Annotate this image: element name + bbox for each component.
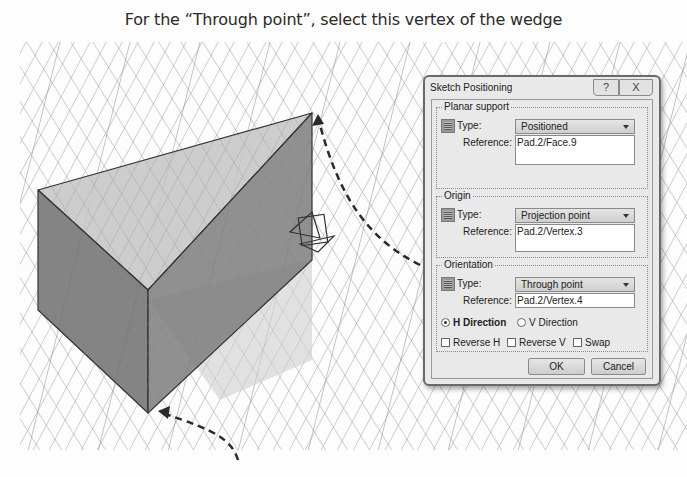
help-button[interactable]: ? [593, 79, 619, 96]
planar-type-value: Positioned [521, 121, 568, 132]
h-direction-radio[interactable] [441, 318, 450, 327]
reverse-v-checkbox[interactable] [507, 338, 516, 347]
dialog-title: Sketch Positioning [430, 82, 512, 93]
h-direction-label[interactable]: H Direction [453, 317, 506, 328]
origin-group: Origin Type: Projection point Reference:… [436, 196, 648, 258]
orientation-reference-label: Reference: [463, 295, 512, 306]
type-icon[interactable] [441, 277, 455, 291]
ok-button[interactable]: OK [528, 358, 585, 375]
origin-label: Origin [442, 190, 473, 201]
reverse-v-label[interactable]: Reverse V [519, 337, 566, 348]
origin-reference-field[interactable]: Pad.2/Vertex.3 [515, 224, 635, 252]
orientation-type-value: Through point [521, 279, 583, 290]
orientation-type-label: Type: [457, 278, 481, 289]
chevron-down-icon [623, 283, 629, 287]
planar-reference-field[interactable]: Pad.2/Face.9 [515, 135, 635, 165]
v-direction-radio[interactable] [517, 318, 526, 327]
swap-label[interactable]: Swap [585, 337, 610, 348]
planar-type-select[interactable]: Positioned [515, 119, 635, 134]
chevron-down-icon [623, 214, 629, 218]
origin-type-label: Type: [457, 209, 481, 220]
reverse-h-checkbox[interactable] [441, 338, 450, 347]
cancel-button[interactable]: Cancel [591, 358, 646, 375]
sketch-positioning-dialog[interactable]: Sketch Positioning ? X Planar support Ty… [423, 75, 661, 386]
origin-reference-label: Reference: [463, 226, 512, 237]
v-direction-label[interactable]: V Direction [529, 317, 578, 328]
type-icon[interactable] [441, 208, 455, 222]
planar-reference-label: Reference: [463, 137, 512, 148]
dialog-body: Planar support Type: Positioned Referenc… [431, 99, 653, 379]
type-icon[interactable] [441, 119, 455, 133]
swap-checkbox[interactable] [573, 338, 582, 347]
orientation-label: Orientation [442, 259, 495, 270]
planar-support-label: Planar support [442, 101, 511, 112]
close-button[interactable]: X [619, 79, 653, 96]
origin-type-value: Projection point [521, 210, 590, 221]
orientation-group: Orientation Type: Through point Referenc… [436, 265, 648, 352]
orientation-reference-field[interactable]: Pad.2/Vertex.4 [515, 293, 635, 308]
planar-support-group: Planar support Type: Positioned Referenc… [436, 107, 648, 189]
planar-type-label: Type: [457, 120, 481, 131]
chevron-down-icon [623, 125, 629, 129]
orientation-type-select[interactable]: Through point [515, 277, 635, 292]
reverse-h-label[interactable]: Reverse H [453, 337, 500, 348]
origin-type-select[interactable]: Projection point [515, 208, 635, 223]
